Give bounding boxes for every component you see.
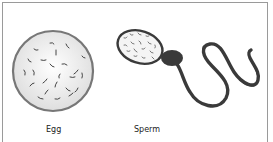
egg-cell-icon xyxy=(13,31,93,111)
sperm-label: Sperm xyxy=(134,125,160,134)
cells-illustration xyxy=(0,0,273,142)
sperm-cell-icon xyxy=(113,25,258,106)
egg-label: Egg xyxy=(46,125,61,134)
